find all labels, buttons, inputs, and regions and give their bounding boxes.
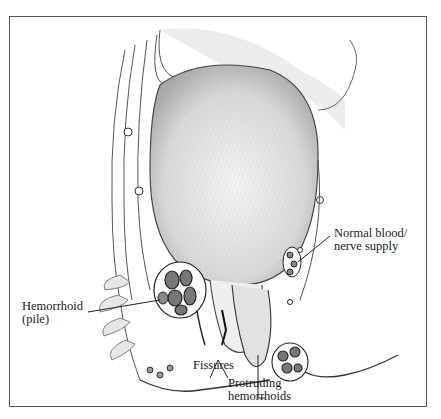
small-vessels-bottom (147, 365, 173, 378)
prolapse (232, 285, 271, 366)
hemorrhoid-pile (158, 292, 168, 304)
label-line: hemorrhoids (228, 390, 291, 403)
label-line: nerve supply (334, 240, 407, 253)
label-normal-blood: Normal blood/ nerve supply (334, 227, 407, 253)
label-line: (pile) (22, 313, 83, 326)
label-hemorrhoid: Hemorrhoid (pile) (22, 300, 83, 326)
hemorrhoid-left (154, 262, 206, 318)
label-protruding: Protruding hemorrhoids (228, 377, 291, 403)
vessel-icon (317, 197, 324, 204)
vessel-icon (124, 128, 132, 136)
vessel-icon (135, 187, 143, 195)
vessels-right (283, 247, 303, 305)
label-fissures: Fissures (193, 359, 234, 372)
anatomy-illustration (0, 0, 441, 419)
